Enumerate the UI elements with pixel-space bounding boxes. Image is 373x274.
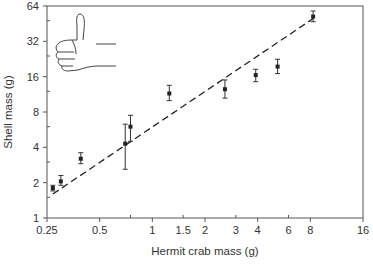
data-point xyxy=(167,85,172,100)
x-tick-label: 1 xyxy=(149,224,155,236)
marker xyxy=(276,65,280,69)
scatter-chart: 1248163264 0.250.511.52346816 Hermit cra… xyxy=(0,0,373,274)
plot-area xyxy=(47,6,363,218)
marker xyxy=(123,142,127,146)
y-tick-label: 8 xyxy=(33,106,39,118)
x-tick-label: 4 xyxy=(255,224,261,236)
data-point xyxy=(123,124,128,169)
data-point xyxy=(222,80,227,98)
x-axis-label: Hermit crab mass (g) xyxy=(151,245,259,257)
x-tick-label: 8 xyxy=(307,224,313,236)
regression-line xyxy=(53,19,313,194)
marker xyxy=(223,87,227,91)
y-axis-label: Shell mass (g) xyxy=(2,75,14,149)
x-tick-label: 0.5 xyxy=(92,224,107,236)
marker xyxy=(254,73,258,77)
y-tick-label: 32 xyxy=(27,35,39,47)
x-tick-label: 1.5 xyxy=(175,224,190,236)
marker xyxy=(311,15,315,19)
y-tick-label: 2 xyxy=(33,177,39,189)
data-point xyxy=(50,185,55,191)
y-tick-label: 1 xyxy=(33,212,39,224)
x-tick-label: 0.25 xyxy=(36,224,57,236)
marker xyxy=(51,186,55,190)
y-tick-label: 64 xyxy=(27,0,39,12)
x-tick-label: 6 xyxy=(285,224,291,236)
marker xyxy=(59,179,63,183)
marker xyxy=(79,157,83,161)
data-point xyxy=(275,59,280,73)
data-points xyxy=(50,11,315,191)
data-point xyxy=(78,153,83,164)
x-tick-label: 3 xyxy=(233,224,239,236)
data-point xyxy=(253,69,258,81)
y-tick-label: 4 xyxy=(33,141,39,153)
data-point xyxy=(58,176,63,186)
y-tick-label: 16 xyxy=(27,71,39,83)
thumbs-up-icon xyxy=(56,14,116,71)
x-tick-label: 2 xyxy=(202,224,208,236)
data-point xyxy=(128,115,133,141)
marker xyxy=(167,92,171,96)
marker xyxy=(128,125,132,129)
x-tick-label: 16 xyxy=(357,224,369,236)
